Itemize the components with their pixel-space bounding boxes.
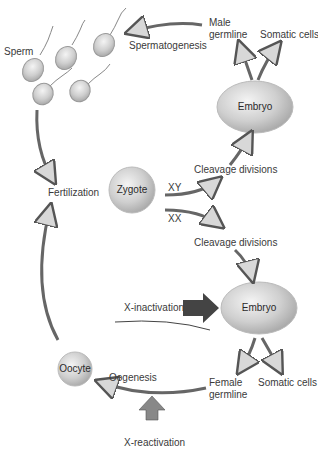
oocyte-to-fertilization-arrow <box>42 208 58 340</box>
xy-label: XY <box>168 182 181 193</box>
cleavage-xy-label: Cleavage divisions <box>194 164 277 175</box>
spermatogenesis-arrow <box>130 24 202 32</box>
male-germline-label-1: Male <box>209 17 231 28</box>
x-reactivation-label: X-reactivation <box>124 437 185 448</box>
sperm-icon <box>66 64 110 106</box>
oogenesis-arrow <box>100 382 206 393</box>
x-inactivation-line <box>115 321 210 330</box>
spermatogenesis-label: Spermatogenesis <box>129 40 207 51</box>
sperm-icon <box>89 8 126 60</box>
fertilization-label: Fertilization <box>48 187 99 198</box>
female-germline-arrow <box>240 338 255 370</box>
sperm-icon <box>51 20 85 73</box>
cleavage-xx-arrow <box>235 250 252 278</box>
female-germline-label-1: Female <box>209 377 242 388</box>
oogenesis-label: Oogenesis <box>109 372 157 383</box>
x-reactivation-arrow <box>139 396 165 420</box>
embryo-female-label: Embryo <box>221 302 297 313</box>
cleavage-xy-arrow <box>230 135 250 165</box>
cleavage-xx-label: Cleavage divisions <box>194 237 277 248</box>
somatic-male-label: Somatic cells <box>260 29 318 40</box>
somatic-male-arrow <box>258 45 278 80</box>
xx-label: XX <box>168 213 181 224</box>
somatic-female-arrow <box>262 338 280 370</box>
female-germline-label-2: germline <box>209 389 247 400</box>
sperm-cells <box>18 8 126 109</box>
x-inactivation-arrow <box>183 293 219 323</box>
embryo-male-label: Embryo <box>217 101 293 112</box>
oocyte-label: Oocyte <box>58 363 92 374</box>
male-germline-label-2: germline <box>209 29 247 40</box>
sperm-label: Sperm <box>4 46 33 57</box>
sperm-to-fertilization-arrow <box>37 110 53 180</box>
somatic-female-label: Somatic cells <box>258 377 317 388</box>
male-germline-arrow <box>240 45 252 80</box>
zygote-label: Zygote <box>109 184 155 195</box>
process-arrows <box>37 24 280 393</box>
x-inactivation-label: X-inactivation <box>124 302 184 313</box>
